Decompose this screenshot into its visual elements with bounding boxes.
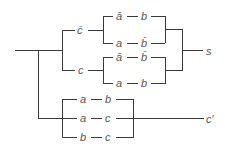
switch-b: b bbox=[141, 77, 147, 89]
switch-a: a bbox=[80, 93, 86, 105]
switch-c: c bbox=[105, 131, 111, 143]
switch-c: c bbox=[105, 112, 111, 124]
switch-a-bar: ā bbox=[116, 51, 122, 63]
switch-c: c bbox=[78, 64, 84, 76]
sum-network: c̄ c ā b a b̄ ā b̄ a b bbox=[62, 10, 212, 89]
input-wire bbox=[15, 50, 62, 119]
switch-a-bar: ā bbox=[116, 10, 122, 22]
switch-b-bar: b̄ bbox=[141, 37, 147, 49]
output-carry-label: c′ bbox=[206, 113, 215, 125]
full-adder-circuit-diagram: c̄ c ā b a b̄ ā b̄ a b bbox=[0, 0, 225, 149]
switch-b-bar: b̄ bbox=[141, 51, 147, 63]
switch-a: a bbox=[116, 77, 122, 89]
switch-b: b bbox=[105, 93, 111, 105]
switch-b: b bbox=[80, 131, 86, 143]
switch-a: a bbox=[116, 37, 122, 49]
switch-b: b bbox=[141, 10, 147, 22]
carry-network: a b a c b c c′ bbox=[62, 93, 215, 143]
switch-a: a bbox=[80, 112, 86, 124]
switch-c-bar: c̄ bbox=[77, 24, 83, 36]
output-sum-label: s bbox=[206, 45, 212, 57]
